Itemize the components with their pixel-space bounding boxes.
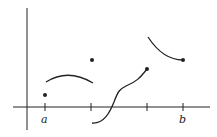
point-removable bbox=[90, 58, 94, 62]
point-at-a bbox=[43, 93, 47, 97]
curve-segment-3 bbox=[148, 37, 183, 60]
point-at-b bbox=[181, 58, 185, 62]
label-b: b bbox=[179, 113, 186, 126]
function-graph: a b bbox=[0, 0, 217, 137]
curve-segment-2 bbox=[92, 69, 147, 123]
curve-segment-1 bbox=[46, 75, 93, 83]
label-a: a bbox=[41, 113, 48, 126]
point-curve-2-end bbox=[145, 67, 149, 71]
